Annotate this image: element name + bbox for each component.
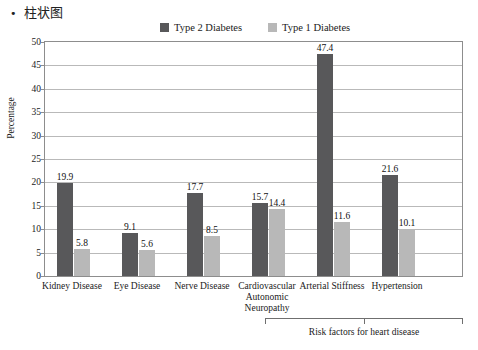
bar[interactable] (334, 222, 350, 276)
y-axis-tick-mark (41, 182, 45, 183)
legend-swatch-type-2-diabetes (160, 23, 169, 32)
y-axis-tick-mark (41, 159, 45, 160)
bar-value-label: 10.1 (390, 218, 424, 228)
bar-value-label: 19.9 (48, 172, 82, 182)
legend-item-type-2-diabetes: Type 2 Diabetes (160, 22, 242, 33)
y-axis-tick-label: 20 (32, 177, 42, 187)
bar[interactable] (399, 229, 415, 276)
bar-group: 9.15.6 (122, 42, 155, 276)
bar-value-label: 8.5 (195, 225, 229, 235)
bar-group: 19.95.8 (57, 42, 90, 276)
bar-group: 21.610.1 (382, 42, 415, 276)
risk-factor-bracket (265, 318, 463, 325)
bar[interactable] (204, 236, 220, 276)
bracket-cap-left (265, 318, 266, 324)
legend-label-type-1-diabetes: Type 1 Diabetes (282, 22, 350, 33)
bar-value-label: 47.4 (308, 43, 342, 53)
y-axis-tick-label: 10 (32, 224, 42, 234)
bar-chart: Type 2 Diabetes Type 1 Diabetes Percenta… (0, 0, 478, 350)
y-axis-title: Percentage (6, 97, 16, 139)
y-axis-tick-label: 30 (32, 131, 42, 141)
legend-swatch-type-1-diabetes (268, 23, 277, 32)
y-axis-tick-mark (41, 206, 45, 207)
bar-value-label: 14.4 (260, 198, 294, 208)
y-axis-tick-mark (41, 42, 45, 43)
bar[interactable] (139, 250, 155, 276)
y-axis-tick-mark (41, 65, 45, 66)
x-axis-label-line: Neuropathy (219, 303, 315, 314)
bar-group: 15.714.4 (252, 42, 285, 276)
bar-group: 47.411.6 (317, 42, 350, 276)
y-axis-tick-mark (41, 136, 45, 137)
y-axis-tick-mark (41, 229, 45, 230)
bracket-center-tick (364, 318, 365, 324)
y-axis-tick-mark (41, 89, 45, 90)
bar-group: 17.78.5 (187, 42, 220, 276)
y-axis-tick-label: 25 (32, 154, 42, 164)
bar-value-label: 17.7 (178, 182, 212, 192)
bracket-cap-right (462, 318, 463, 324)
x-axis-category-label: Hypertension (349, 281, 445, 292)
bracket-label: Risk factors for heart disease (265, 327, 463, 337)
y-axis-tick-mark (41, 276, 45, 277)
y-axis-tick-mark (41, 112, 45, 113)
bar[interactable] (74, 249, 90, 276)
bar[interactable] (57, 183, 73, 276)
legend-label-type-2-diabetes: Type 2 Diabetes (174, 22, 242, 33)
bar-value-label: 9.1 (113, 222, 147, 232)
y-axis-tick-mark (41, 253, 45, 254)
y-axis-tick-label: 15 (32, 201, 42, 211)
x-axis-label-line: Hypertension (349, 281, 445, 292)
bar-value-label: 5.8 (65, 238, 99, 248)
bar[interactable] (252, 203, 268, 276)
legend-item-type-1-diabetes: Type 1 Diabetes (268, 22, 350, 33)
plot-area: 0510152025303540455019.95.89.15.617.78.5… (44, 41, 463, 277)
bar-value-label: 11.6 (325, 211, 359, 221)
x-axis-label-line: Autonomic (219, 292, 315, 303)
y-axis-tick-label: 50 (32, 37, 42, 47)
y-axis-tick-label: 40 (32, 84, 42, 94)
bar-value-label: 21.6 (373, 164, 407, 174)
bar-value-label: 5.6 (130, 239, 164, 249)
y-axis-tick-label: 45 (32, 60, 42, 70)
bar[interactable] (317, 54, 333, 276)
y-axis-tick-label: 35 (32, 107, 42, 117)
bar[interactable] (269, 209, 285, 276)
chart-legend: Type 2 Diabetes Type 1 Diabetes (160, 21, 380, 34)
